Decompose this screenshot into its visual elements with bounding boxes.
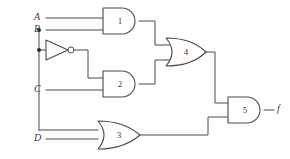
junction-dot-icon bbox=[37, 48, 41, 52]
gate-4-label: 4 bbox=[184, 47, 189, 57]
input-label-d: D bbox=[33, 132, 42, 143]
wire-inverter-to-gate2 bbox=[74, 50, 103, 78]
gate-1-and[interactable]: 1 bbox=[103, 8, 135, 34]
gate-2-label: 2 bbox=[118, 79, 123, 89]
gate-4-or[interactable]: 4 bbox=[166, 38, 206, 66]
output-label-f: f bbox=[277, 103, 281, 114]
gate-1-label: 1 bbox=[118, 16, 123, 26]
inverter-not-b[interactable] bbox=[46, 40, 74, 60]
gate-3-or[interactable]: 3 bbox=[98, 121, 140, 149]
inversion-bubble-icon bbox=[68, 47, 74, 53]
gate-3-label: 3 bbox=[117, 130, 122, 140]
circuit-canvas: 1 2 3 4 5 A B C bbox=[0, 0, 290, 159]
wire-gate3-to-gate5 bbox=[140, 117, 228, 135]
input-label-a: A bbox=[33, 11, 41, 22]
gate-5-label: 5 bbox=[243, 105, 248, 115]
input-label-b: B bbox=[34, 23, 40, 34]
not-gate-icon bbox=[46, 40, 68, 60]
logic-circuit-diagram: 1 2 3 4 5 A B C bbox=[0, 0, 290, 159]
input-label-c: C bbox=[34, 83, 41, 94]
wire-gate1-to-gate4 bbox=[139, 21, 170, 45]
wire-gate2-to-gate4 bbox=[139, 60, 170, 84]
gate-5-and[interactable]: 5 bbox=[228, 97, 260, 123]
gate-2-and[interactable]: 2 bbox=[103, 71, 135, 97]
wire-gate4-to-gate5 bbox=[206, 52, 228, 103]
